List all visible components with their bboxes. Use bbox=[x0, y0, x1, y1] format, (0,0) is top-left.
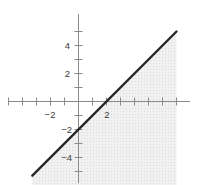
y-tick-label-4: 4 bbox=[65, 40, 70, 51]
graph-canvas: −2 2 4 2 −2 −4 bbox=[0, 0, 198, 185]
x-tick-label-2: 2 bbox=[104, 109, 109, 120]
x-tick-label-neg2: −2 bbox=[45, 109, 56, 120]
coordinate-graph: −2 2 4 2 −2 −4 bbox=[0, 0, 198, 185]
y-tick-label-neg4: −4 bbox=[61, 152, 72, 163]
y-tick-label-2: 2 bbox=[65, 68, 70, 79]
y-tick-label-neg2: −2 bbox=[61, 124, 72, 135]
